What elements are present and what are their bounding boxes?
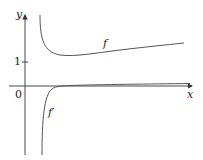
curve-f-prime xyxy=(42,84,190,156)
x-axis-label: x xyxy=(187,88,193,101)
y-axis-label: y xyxy=(16,8,22,21)
curve-f-prime-label: f′ xyxy=(48,106,55,119)
plot-area xyxy=(0,0,203,160)
curve-f-label: f xyxy=(103,37,107,50)
origin-label: 0 xyxy=(15,88,22,101)
y-tick-label-1: 1 xyxy=(14,55,21,68)
curve-f xyxy=(40,15,184,56)
graph: y x 1 0 f f′ xyxy=(0,0,203,160)
